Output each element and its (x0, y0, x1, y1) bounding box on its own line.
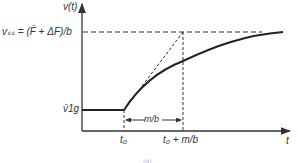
t0-plus-label: t₀ + m/b (163, 135, 198, 145)
interval-label: m/b (144, 115, 159, 124)
response-curve (124, 32, 283, 110)
response-diagram (0, 0, 298, 163)
caption: (a) (143, 158, 152, 163)
x-axis-label: t (286, 136, 289, 146)
v1g-label: v̄1g (63, 104, 79, 114)
y-axis-label: v(t) (63, 2, 77, 12)
vss-label: vₛₛ = (F̄ + ΔF)/b (2, 27, 72, 37)
t0-label: t₀ (120, 135, 127, 145)
